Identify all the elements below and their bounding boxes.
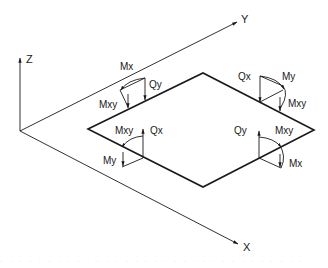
label-qy: Qy	[234, 125, 247, 136]
plate-diagram: Z Y X Mx Qy Mxy Qx My Mxy Mxy Qx My	[0, 0, 328, 268]
label-qx: Qx	[238, 71, 251, 82]
x-axis	[20, 131, 238, 244]
label-qy: Qy	[149, 79, 162, 90]
label-my: My	[103, 155, 116, 166]
mxy-arc	[122, 136, 143, 147]
label-mxy: Mxy	[115, 125, 133, 136]
faded-caption: · · · · · · · · · · · · · · · · · · · · …	[0, 258, 328, 268]
label-mxy: Mxy	[288, 98, 306, 109]
label-qx: Qx	[150, 125, 163, 136]
mxy-arc	[259, 137, 281, 147]
z-axis-label: Z	[26, 53, 33, 65]
x-axis-label: X	[243, 241, 251, 253]
label-my: My	[282, 71, 295, 82]
y-axis-label: Y	[241, 13, 249, 25]
corner-bottom-right	[259, 131, 284, 168]
label-mxy: Mxy	[275, 125, 293, 136]
y-axis	[20, 22, 237, 131]
label-mx: Mx	[289, 158, 302, 169]
label-mxy: Mxy	[99, 99, 117, 110]
label-mx: Mx	[120, 61, 133, 72]
caption-text: · · · · · · · · · · · · · · · · · · · · …	[0, 258, 328, 264]
